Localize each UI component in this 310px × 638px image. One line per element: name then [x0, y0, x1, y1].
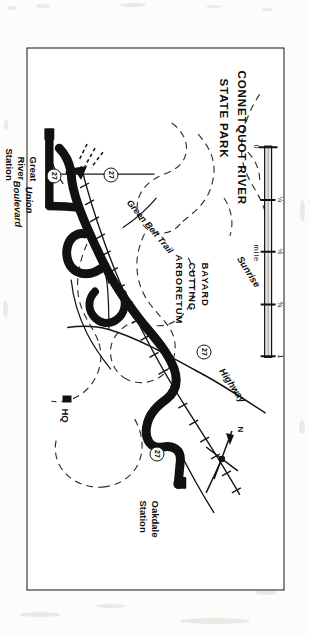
minor-roads — [49, 156, 265, 413]
route-node-markers — [44, 128, 186, 489]
scale-bar-graphic — [259, 146, 278, 357]
oakdale-station-label-line2: Station — [138, 501, 148, 533]
headquarters-marker-icon — [63, 396, 72, 403]
union-boulevard-label-line1: Union — [24, 187, 35, 214]
oakdale-station-label-line1: Oakdale — [150, 501, 160, 538]
great-river-station-label-line1: Great — [28, 157, 38, 182]
park-label-line1: CONNETQUOT RIVER — [235, 71, 247, 206]
route-shield-sunrise-north[interactable]: 27 — [197, 345, 212, 360]
union-boulevard-label-line2: Boulevard — [12, 181, 24, 228]
scale-tick-half: ½ — [276, 249, 283, 255]
great-river-station-label-line2: River — [16, 157, 26, 181]
arboretum-label-line1: BAYARD — [200, 263, 210, 307]
scale-bar-unit-label: mile — [252, 245, 260, 263]
route-shield-number: 27 — [51, 172, 58, 180]
map-frame: CONNETQUOT RIVER STATE PARK BAYARD CUTTI… — [27, 48, 285, 591]
route-shield-number: 27 — [201, 348, 208, 356]
scale-tick-0: 0 — [252, 145, 259, 149]
park-entrance-dashes — [79, 144, 103, 168]
park-label-line2: STATE PARK — [217, 79, 229, 159]
route-shield-west[interactable]: 27 — [104, 168, 119, 183]
arboretum-label-line2: CUTTING — [187, 263, 197, 312]
route-shield-number: 27 — [108, 171, 115, 179]
great-river-station-label-line3: Station — [4, 149, 14, 181]
park-boundary-dashed-lines — [51, 94, 265, 487]
headquarters-label: HQ — [60, 409, 70, 423]
north-arrow-label: N — [235, 427, 243, 433]
route-shield-oakdale[interactable]: 27 — [150, 447, 165, 462]
scale-tick-one: 1 — [276, 355, 283, 359]
arboretum-label-line3: ARBORETUM — [174, 255, 184, 325]
scale-tick-three-quarter: ¾ — [276, 302, 283, 308]
route-shield-south[interactable]: 27 — [47, 169, 62, 184]
route-shield-number: 27 — [154, 450, 161, 458]
scale-tick-quarter: ¼ — [276, 197, 283, 203]
